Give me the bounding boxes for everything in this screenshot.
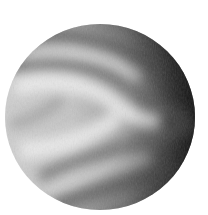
planet-svg [0,0,208,215]
planet-image [0,0,208,215]
planet-disc [0,0,208,215]
